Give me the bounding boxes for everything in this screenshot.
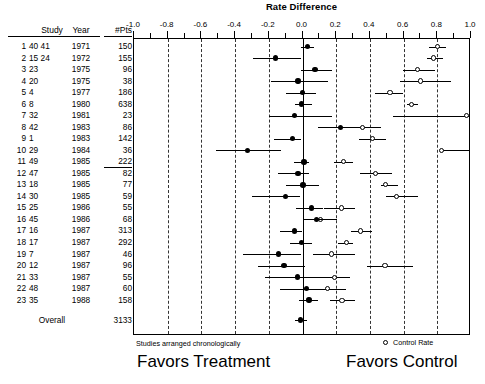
table-row-year: 1980 [62, 99, 100, 110]
table-row-index: 11 [8, 156, 26, 167]
rate-difference-marker [300, 182, 305, 187]
rate-difference-marker [305, 44, 310, 49]
table-row-year: 1984 [62, 145, 100, 156]
table-row-pts: 23 [104, 110, 132, 121]
rate-difference-marker [299, 240, 304, 245]
rate-difference-marker [312, 67, 317, 72]
table-row-year: 1981 [62, 110, 100, 121]
control-rate-marker [382, 263, 387, 268]
control-rate-marker [360, 125, 365, 130]
control-rate-marker [439, 148, 444, 153]
table-row-pts: 292 [104, 237, 132, 248]
control-rate-marker [339, 205, 344, 210]
table-row-year: 1985 [62, 168, 100, 179]
rate-difference-marker [338, 125, 343, 130]
table-row-pts: 313 [104, 225, 132, 236]
table-row-year: 1983 [62, 122, 100, 133]
table-row-year: 1987 [62, 260, 100, 271]
legend-control-rate: Control Rate [383, 338, 433, 347]
table-row-year: 1986 [62, 214, 100, 225]
rate-difference-interval [243, 254, 302, 255]
rate-difference-interval [318, 127, 351, 128]
control-rate-interval [400, 81, 451, 82]
table-row-year: 1987 [62, 272, 100, 283]
rate-difference-marker [304, 286, 309, 291]
table-row-year: 1988 [62, 295, 100, 306]
table-row-index: 12 [8, 168, 26, 179]
table-row-pts: 96 [104, 64, 132, 75]
rate-difference-marker [300, 90, 305, 95]
control-rate-marker [329, 251, 334, 256]
table-row-year: 1971 [62, 41, 100, 52]
table-row-year: 1987 [62, 283, 100, 294]
overall-rate-difference-marker [298, 317, 303, 322]
table-row-index: 15 [8, 202, 26, 213]
table-row-year: 1985 [62, 179, 100, 190]
control-rate-marker [431, 55, 436, 60]
control-rate-marker [332, 275, 337, 280]
control-rate-interval [393, 116, 470, 117]
table-row-index: 2 [8, 53, 26, 64]
control-rate-marker [339, 298, 344, 303]
table-row-index: 13 [8, 179, 26, 190]
control-rate-marker [409, 102, 414, 107]
table-row-year: 1985 [62, 191, 100, 202]
table-row-index: 10 [8, 145, 26, 156]
open-circle-icon [383, 340, 388, 345]
control-rate-interval [386, 196, 418, 197]
rate-difference-marker [299, 101, 304, 106]
table-row-pts: 55 [104, 272, 132, 283]
table-row-pts: 222 [104, 156, 132, 168]
overall-label: Overall [8, 315, 96, 326]
table-row-pts: 150 [104, 41, 132, 52]
overall-pts: 3133 [104, 315, 132, 326]
table-row-pts: 77 [104, 179, 132, 190]
favors-control-label: Favors Control [346, 352, 457, 372]
rate-difference-interval [280, 289, 319, 290]
table-row-pts: 36 [104, 145, 132, 156]
table-row-pts: 638 [104, 99, 132, 110]
table-row-year: 1987 [62, 225, 100, 236]
table-row-index: 20 [8, 260, 26, 271]
rate-difference-interval [274, 139, 302, 140]
forest-plot-figure: Rate Difference Study Year #Pts -1.0-0.8… [0, 0, 485, 384]
rate-difference-interval [265, 277, 319, 278]
table-row-pts: 60 [104, 283, 132, 294]
control-rate-marker [464, 113, 469, 118]
control-rate-marker [341, 159, 346, 164]
control-rate-marker [435, 44, 440, 49]
control-rate-interval [441, 150, 470, 151]
table-row-index: 5 [8, 87, 26, 98]
control-rate-marker [325, 286, 330, 291]
table-row-pts: 186 [104, 87, 132, 98]
table-row-index: 21 [8, 272, 26, 283]
table-row-year: 1983 [62, 133, 100, 144]
table-row-year: 1972 [62, 53, 100, 64]
table-row-index: 6 [8, 99, 26, 110]
table-row-index: 3 [8, 64, 26, 75]
rate-difference-marker [292, 228, 297, 233]
rate-difference-marker [295, 171, 300, 176]
control-rate-marker [344, 240, 349, 245]
legend-control-rate-label: Control Rate [393, 338, 433, 347]
rate-difference-interval [280, 231, 301, 232]
rate-difference-interval [278, 173, 309, 174]
table-row-index: 18 [8, 237, 26, 248]
rate-difference-marker [276, 251, 281, 256]
rate-difference-marker [281, 263, 286, 268]
rate-difference-interval [269, 116, 331, 117]
rate-difference-interval [252, 196, 300, 197]
control-rate-marker [358, 228, 363, 233]
chronological-note: Studies arranged chronologically [136, 339, 240, 348]
table-row-pts: 68 [104, 214, 132, 225]
rate-difference-marker [309, 205, 314, 210]
table-and-marks-layer: 140 411971150215 24197215532319759642019… [0, 0, 485, 384]
table-row-index: 19 [8, 249, 26, 260]
favors-treatment-label: Favors Treatment [137, 352, 270, 372]
table-row-year: 1975 [62, 76, 100, 87]
table-row-index: 14 [8, 191, 26, 202]
control-rate-marker [394, 194, 399, 199]
table-row-pts: 55 [104, 202, 132, 213]
rate-difference-marker [290, 136, 295, 141]
table-row-year: 1987 [62, 237, 100, 248]
